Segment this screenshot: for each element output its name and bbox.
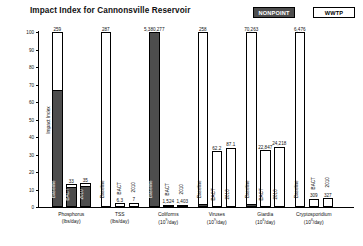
bar-scenario-label: Baseline xyxy=(295,181,300,199)
category-unit: (106/day) xyxy=(255,218,275,226)
bar-value-label: 258 xyxy=(199,27,207,32)
bar-value-label: 7 xyxy=(132,197,135,202)
bar-tss-baseline: 287Baseline xyxy=(101,32,112,207)
bar-value-label: 33 xyxy=(69,179,74,184)
bar-scenario-label: BACT xyxy=(311,177,316,189)
bar-value-label: 309 xyxy=(310,193,318,198)
bar-scenario-label: Baseline xyxy=(101,181,106,199)
legend-item-nonpoint: NONPOINT xyxy=(253,7,295,18)
category-labels: Phosphorus(lbs/day)TSS(lbs/day)Coliforms… xyxy=(38,211,354,241)
bar-scenario-label: BACT xyxy=(67,189,72,201)
bar-phosphorus-bact: 33BACT xyxy=(66,184,77,207)
y-tick-label: 100 xyxy=(26,30,34,35)
bar-coliforms-baseline: 5,380,277Baseline xyxy=(149,32,160,207)
bar-scenario-label: 2010 xyxy=(226,190,231,200)
bar-scenario-label: BACT xyxy=(212,189,217,201)
bar-scenario-label: Baseline xyxy=(150,181,155,199)
chart-container: Impact Index for Cannonsville Reservoir … xyxy=(0,0,363,246)
category-name: Coliforms xyxy=(158,212,179,217)
category-name: Phosphorus xyxy=(58,212,84,217)
bar-coliforms-2010: 1,4032010 xyxy=(177,205,188,208)
category-name: Viruses xyxy=(209,212,225,217)
bar-value-label: 287 xyxy=(102,27,110,32)
category-label-viruses: Viruses(109/day) xyxy=(207,211,227,226)
bar-value-label: 327 xyxy=(324,193,332,198)
y-tick-label: 90 xyxy=(29,47,34,52)
category-name: TSS xyxy=(115,212,125,217)
bar-scenario-label: BACT xyxy=(117,182,122,194)
y-tick-label: 60 xyxy=(29,100,34,105)
bar-cryptosporidium-2010: 3272010 xyxy=(323,198,334,207)
bar-value-label: 62.2 xyxy=(212,146,221,151)
bar-value-label: 24,218 xyxy=(272,141,286,146)
y-tick-label: 40 xyxy=(29,135,34,140)
legend-label-wwtp: WWTP xyxy=(325,10,344,16)
category-label-phosphorus: Phosphorus(lbs/day) xyxy=(58,211,84,225)
bars-layer: 259Baseline33BACT352010287Baseline6.3BAC… xyxy=(38,31,354,208)
bar-value-label: 35 xyxy=(83,178,88,183)
bar-scenario-label: Baseline xyxy=(53,181,58,199)
bar-scenario-label: 2010 xyxy=(275,190,280,200)
category-name: Cryptosporidium xyxy=(296,212,332,217)
y-tick-label: 0 xyxy=(31,205,34,210)
bar-viruses-baseline: 258Baseline xyxy=(198,32,209,207)
legend-label-nonpoint: NONPOINT xyxy=(258,10,289,16)
bar-giardia-2010: 24,2182010 xyxy=(274,147,285,207)
y-tick-label: 50 xyxy=(29,117,34,122)
bar-coliforms-bact: 1,524BACT xyxy=(163,205,174,208)
bar-segment-nonpoint xyxy=(198,204,209,208)
bar-viruses-bact: 62.2BACT xyxy=(212,151,223,207)
category-label-cryptosporidium: Cryptosporidium(106/day) xyxy=(296,211,332,226)
bar-scenario-label: BACT xyxy=(166,183,171,195)
bar-value-label: 70,263 xyxy=(244,27,258,32)
y-tick-label: 20 xyxy=(29,170,34,175)
category-unit: (109/day) xyxy=(158,218,179,226)
chart-title: Impact Index for Cannonsville Reservoir xyxy=(30,6,190,15)
bar-scenario-label: 2010 xyxy=(81,190,86,200)
category-unit: (lbs/day) xyxy=(110,218,129,225)
category-unit: (lbs/day) xyxy=(58,218,84,225)
bar-scenario-label: BACT xyxy=(261,189,266,201)
category-label-coliforms: Coliforms(109/day) xyxy=(158,211,179,226)
bar-cryptosporidium-bact: 309BACT xyxy=(309,199,320,207)
bar-scenario-label: Baseline xyxy=(198,181,203,199)
bar-value-label: 5,380,277 xyxy=(144,27,164,32)
bar-giardia-baseline: 70,263Baseline xyxy=(246,32,257,207)
bar-value-label: 6.3 xyxy=(117,198,123,203)
bar-giardia-bact: 22,847BACT xyxy=(260,150,271,207)
bar-value-label: 87.1 xyxy=(226,142,235,147)
bar-viruses-2010: 87.12010 xyxy=(226,148,237,208)
bar-phosphorus-baseline: 259Baseline xyxy=(52,32,63,207)
bar-scenario-label: 2010 xyxy=(180,184,185,194)
category-label-tss: TSS(lbs/day) xyxy=(110,211,129,225)
bar-value-label: 6,476 xyxy=(294,27,306,32)
category-name: Giardia xyxy=(257,212,273,217)
bar-cryptosporidium-baseline: 6,476Baseline xyxy=(295,32,306,207)
plot-area: Impact Index 0102030405060708090100 259B… xyxy=(38,31,354,208)
bar-segment-nonpoint xyxy=(246,204,257,207)
bar-scenario-label: Baseline xyxy=(247,181,252,199)
category-unit: (106/day) xyxy=(296,218,332,226)
y-tick-label: 80 xyxy=(29,65,34,70)
bar-scenario-label: 2010 xyxy=(131,182,136,192)
bar-value-label: 1,524 xyxy=(163,199,175,204)
bar-tss-2010: 72010 xyxy=(129,203,140,207)
y-tick-label: 70 xyxy=(29,82,34,87)
bar-value-label: 22,847 xyxy=(258,145,272,150)
bar-value-label: 259 xyxy=(53,27,61,32)
legend-item-wwtp: WWTP xyxy=(313,7,355,18)
bar-phosphorus-2010: 352010 xyxy=(80,183,91,207)
chart-legend: NONPOINT WWTP xyxy=(253,7,355,18)
bar-value-label: 1,403 xyxy=(177,199,189,204)
category-label-giardia: Giardia(106/day) xyxy=(255,211,275,226)
y-tick-label: 10 xyxy=(29,187,34,192)
y-tick-label: 30 xyxy=(29,152,34,157)
category-unit: (109/day) xyxy=(207,218,227,226)
bar-tss-bact: 6.3BACT xyxy=(115,203,126,207)
bar-scenario-label: 2010 xyxy=(325,178,330,188)
